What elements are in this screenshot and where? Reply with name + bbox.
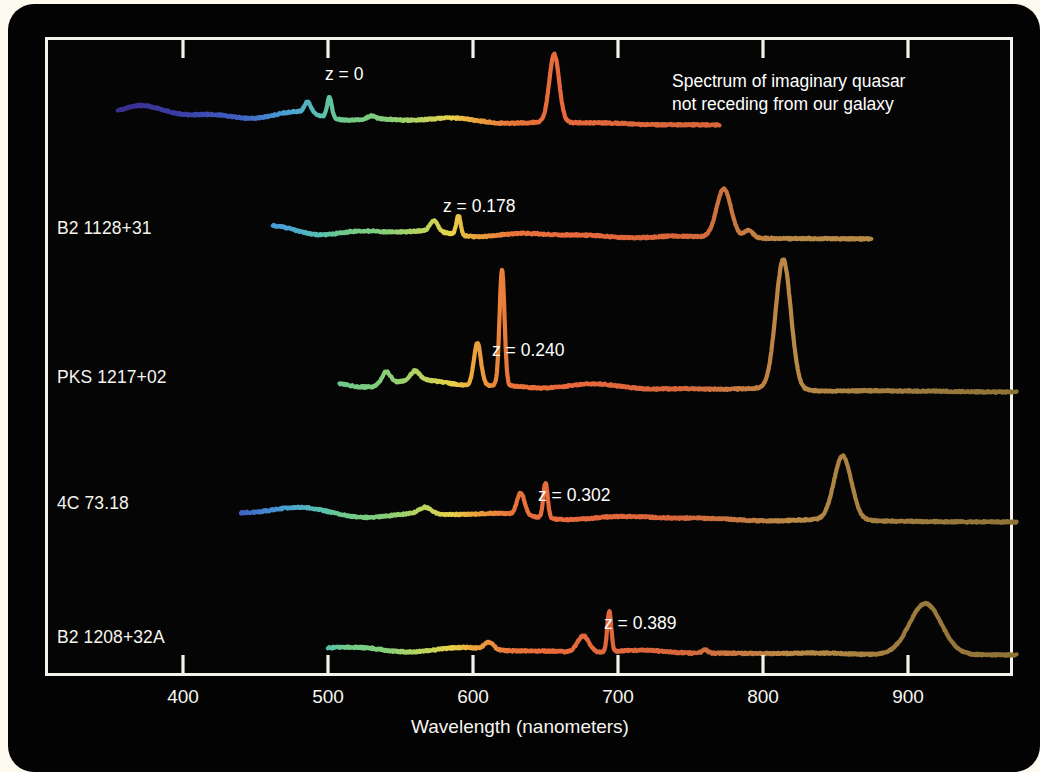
xtick-label-900: 900: [863, 686, 953, 708]
annotation-note: Spectrum of imaginary quasar not recedin…: [672, 70, 932, 116]
redshift-label-3: z = 0.302: [538, 485, 611, 506]
xtick-label-800: 800: [718, 686, 808, 708]
series-label-b2-1208: B2 1208+32A: [57, 627, 165, 648]
figure-root: B2 1128+31 PKS 1217+02 4C 73.18 B2 1208+…: [0, 0, 1040, 772]
redshift-label-0: z = 0: [325, 64, 363, 85]
redshift-label-2: z = 0.240: [492, 340, 565, 361]
xtick-label-700: 700: [573, 686, 663, 708]
redshift-label-1: z = 0.178: [443, 196, 516, 217]
series-label-b2-1128: B2 1128+31: [57, 218, 152, 239]
redshift-label-4: z = 0.389: [604, 613, 677, 634]
x-axis-title: Wavelength (nanometers): [0, 716, 1040, 738]
xtick-label-600: 600: [428, 686, 518, 708]
series-label-4c-73: 4C 73.18: [57, 493, 129, 514]
xtick-label-400: 400: [138, 686, 228, 708]
series-label-pks-1217: PKS 1217+02: [57, 367, 167, 388]
xtick-label-500: 500: [283, 686, 373, 708]
